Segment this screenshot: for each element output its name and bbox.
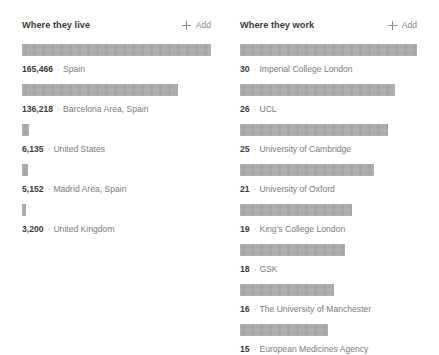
list-item[interactable]: 21·University of Oxford <box>240 164 417 195</box>
plus-icon <box>182 21 191 30</box>
bar <box>22 84 178 96</box>
bar-list-where-they-work: 30·Imperial College London26·UCL25·Unive… <box>240 44 417 355</box>
list-item-label: 6,135·United States <box>22 143 211 155</box>
list-item[interactable]: 3,200·United Kingdom <box>22 204 211 235</box>
list-item-count: 6,135 <box>22 143 44 155</box>
list-item-name: United Kingdom <box>53 223 114 235</box>
list-item[interactable]: 15·European Medicines Agency <box>240 324 417 355</box>
list-item-label: 30·Imperial College London <box>240 63 417 75</box>
list-item-name: The University of Manchester <box>259 303 371 315</box>
bar <box>240 84 395 96</box>
list-item-label: 5,152·Madrid Area, Spain <box>22 183 211 195</box>
panel-title-where-they-live: Where they live <box>22 19 90 31</box>
bar <box>240 124 388 136</box>
panel-header-where-they-live: Where they live Add <box>22 16 211 34</box>
bar <box>240 244 345 256</box>
list-item-separator: · <box>250 183 260 195</box>
list-item-separator: · <box>250 143 260 155</box>
list-item-count: 25 <box>240 143 250 155</box>
list-item-separator: · <box>53 63 63 75</box>
list-item-separator: · <box>250 63 260 75</box>
list-item-label: 18·GSK <box>240 263 417 275</box>
add-button-label: Add <box>402 20 417 31</box>
list-item-separator: · <box>250 303 260 315</box>
list-item-label: 15·European Medicines Agency <box>240 343 417 355</box>
list-item[interactable]: 25·University of Cambridge <box>240 124 417 155</box>
plus-icon <box>388 21 397 30</box>
list-item-count: 5,152 <box>22 183 44 195</box>
list-item-count: 30 <box>240 63 250 75</box>
list-item-name: Imperial College London <box>259 63 352 75</box>
list-item-name: University of Oxford <box>259 183 334 195</box>
list-item-separator: · <box>250 263 260 275</box>
list-item-name: Spain <box>63 63 85 75</box>
list-item-separator: · <box>250 103 260 115</box>
bar <box>240 204 352 216</box>
list-item-name: UCL <box>259 103 276 115</box>
bar-list-where-they-live: 165,466·Spain136,218·Barcelona Area, Spa… <box>22 44 211 235</box>
list-item-name: Madrid Area, Spain <box>53 183 126 195</box>
list-item-count: 15 <box>240 343 250 355</box>
list-item-separator: · <box>44 143 54 155</box>
panel-header-where-they-work: Where they work Add <box>240 16 417 34</box>
list-item-count: 19 <box>240 223 250 235</box>
list-item-name: King's College London <box>259 223 345 235</box>
list-item-separator: · <box>53 103 63 115</box>
list-item-name: European Medicines Agency <box>259 343 368 355</box>
list-item-count: 16 <box>240 303 250 315</box>
list-item-name: University of Cambridge <box>259 143 351 155</box>
list-item-separator: · <box>250 343 260 355</box>
list-item-name: GSK <box>259 263 277 275</box>
list-item-label: 136,218·Barcelona Area, Spain <box>22 103 211 115</box>
bar <box>240 44 417 56</box>
bar <box>240 324 328 336</box>
list-item-count: 18 <box>240 263 250 275</box>
list-item-count: 21 <box>240 183 250 195</box>
list-item-name: Barcelona Area, Spain <box>63 103 149 115</box>
list-item[interactable]: 30·Imperial College London <box>240 44 417 75</box>
list-item-count: 3,200 <box>22 223 44 235</box>
bar <box>22 164 28 176</box>
list-item[interactable]: 16·The University of Manchester <box>240 284 417 315</box>
list-item-count: 136,218 <box>22 103 53 115</box>
list-item-label: 25·University of Cambridge <box>240 143 417 155</box>
list-item-label: 21·University of Oxford <box>240 183 417 195</box>
bar <box>240 284 334 296</box>
list-item-count: 26 <box>240 103 250 115</box>
list-item-label: 19·King's College London <box>240 223 417 235</box>
panel-where-they-live: Where they live Add 165,466·Spain136,218… <box>0 0 220 315</box>
list-item-count: 165,466 <box>22 63 53 75</box>
list-item-label: 165,466·Spain <box>22 63 211 75</box>
list-item[interactable]: 5,152·Madrid Area, Spain <box>22 164 211 195</box>
bar <box>22 44 211 56</box>
add-button-label: Add <box>196 20 211 31</box>
add-button-where-they-live[interactable]: Add <box>182 20 211 31</box>
list-item-separator: · <box>250 223 260 235</box>
list-item-name: United States <box>53 143 105 155</box>
list-item-separator: · <box>44 223 54 235</box>
list-item[interactable]: 165,466·Spain <box>22 44 211 75</box>
list-item[interactable]: 18·GSK <box>240 244 417 275</box>
list-item[interactable]: 136,218·Barcelona Area, Spain <box>22 84 211 115</box>
list-item[interactable]: 6,135·United States <box>22 124 211 155</box>
list-item-label: 3,200·United Kingdom <box>22 223 211 235</box>
list-item[interactable]: 19·King's College London <box>240 204 417 235</box>
bar <box>240 164 374 176</box>
list-item-label: 26·UCL <box>240 103 417 115</box>
list-item-separator: · <box>44 183 54 195</box>
bar <box>22 124 29 136</box>
list-item-label: 16·The University of Manchester <box>240 303 417 315</box>
panel-title-where-they-work: Where they work <box>240 19 314 31</box>
bar <box>22 204 26 216</box>
list-item[interactable]: 26·UCL <box>240 84 417 115</box>
panel-where-they-work: Where they work Add 30·Imperial College … <box>220 0 439 315</box>
add-button-where-they-work[interactable]: Add <box>388 20 417 31</box>
